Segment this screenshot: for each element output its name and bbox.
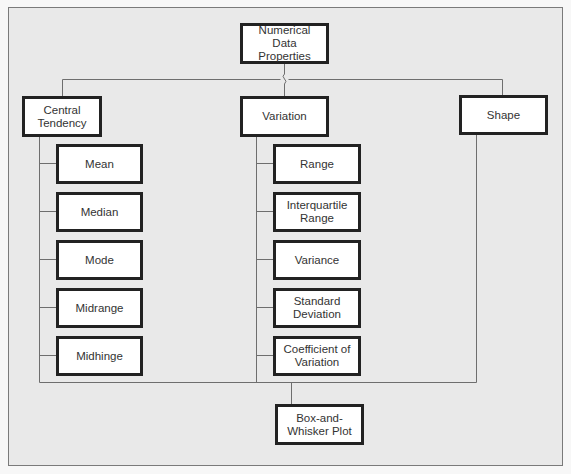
central-branch <box>40 164 57 356</box>
node-midhinge: Midhinge <box>56 336 143 376</box>
node-label: Numerical Data Properties <box>246 24 323 63</box>
node-interquartile-range: Interquartile Range <box>273 192 361 232</box>
node-label: Standard Deviation <box>287 295 347 321</box>
node-midrange: Midrange <box>56 288 143 328</box>
node-label: Range <box>300 158 334 171</box>
node-variance: Variance <box>273 240 361 280</box>
node-label: Shape <box>487 109 520 122</box>
root-connector <box>283 63 286 96</box>
node-mode: Mode <box>56 240 143 280</box>
node-central-tendency: Central Tendency <box>22 96 102 137</box>
variation-branch <box>257 164 274 356</box>
node-label: Central Tendency <box>32 104 92 130</box>
node-label: Mean <box>85 158 114 171</box>
node-mean: Mean <box>56 144 143 184</box>
node-coefficient-of-variation: Coefficient of Variation <box>273 336 361 376</box>
node-label: Midhinge <box>76 350 123 363</box>
node-label: Box-and-Whisker Plot <box>281 412 358 438</box>
node-label: Midrange <box>76 302 124 315</box>
node-box-and-whisker-plot: Box-and-Whisker Plot <box>275 404 364 445</box>
node-variation: Variation <box>240 96 329 137</box>
node-range: Range <box>273 144 361 184</box>
connector-lines <box>0 0 571 474</box>
node-median: Median <box>56 192 143 232</box>
node-label: Interquartile Range <box>282 199 352 225</box>
node-label: Variation <box>262 110 307 123</box>
node-numerical-data-properties: Numerical Data Properties <box>240 23 329 64</box>
node-label: Median <box>81 206 119 219</box>
node-shape: Shape <box>459 95 548 135</box>
node-standard-deviation: Standard Deviation <box>273 288 361 328</box>
node-label: Variance <box>295 254 340 267</box>
node-label: Coefficient of Variation <box>282 343 352 369</box>
node-label: Mode <box>85 254 114 267</box>
